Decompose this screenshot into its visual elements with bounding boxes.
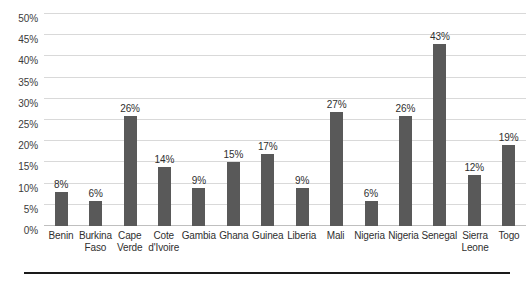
bar-slot: 8%	[44, 14, 78, 226]
bar[interactable]: 9%	[192, 188, 205, 226]
y-axis-tick-label: 25%	[18, 119, 38, 120]
y-axis-tick-label: 50%	[18, 13, 38, 14]
bar[interactable]: 9%	[296, 188, 309, 226]
bar-value-label: 15%	[223, 149, 243, 160]
bar-value-label: 6%	[364, 188, 378, 199]
bar-value-label: 12%	[464, 162, 484, 173]
bar-value-label: 27%	[327, 99, 347, 110]
y-axis-tick-label: 45%	[18, 34, 38, 35]
chart-screenshot: 0%5%10%15%20%25%30%35%40%45%50% 8%6%26%1…	[0, 0, 532, 287]
bar-slot: 9%	[285, 14, 319, 226]
x-axis-tick-label: Guinea	[251, 228, 285, 242]
bar[interactable]: 27%	[330, 112, 343, 226]
bar-slot: 43%	[423, 14, 457, 226]
x-axis-tick-label: Nigeria	[386, 228, 420, 242]
bar-slot: 26%	[388, 14, 422, 226]
bar-value-label: 9%	[192, 175, 206, 186]
x-axis-tick-label: SierraLeone	[458, 228, 492, 254]
y-axis-tick-label: 10%	[18, 182, 38, 183]
y-axis-tick-label: 30%	[18, 97, 38, 98]
bar[interactable]: 26%	[124, 116, 137, 226]
x-axis-tick-label: Mali	[319, 228, 353, 242]
bar-value-label: 6%	[88, 188, 102, 199]
bar-value-label: 17%	[258, 141, 278, 152]
bar-slot: 14%	[147, 14, 181, 226]
plot-area: 0%5%10%15%20%25%30%35%40%45%50% 8%6%26%1…	[44, 14, 526, 226]
bar[interactable]: 43%	[433, 44, 446, 226]
bar[interactable]: 14%	[158, 167, 171, 226]
bar-slot: 6%	[78, 14, 112, 226]
x-axis-tick-label: Benin	[44, 228, 78, 242]
bar[interactable]: 15%	[227, 162, 240, 226]
bar-slot: 27%	[319, 14, 353, 226]
bar-slot: 26%	[113, 14, 147, 226]
x-axis-tick-label: Ghana	[217, 228, 251, 242]
y-axis-tick-label: 5%	[24, 203, 38, 204]
y-axis-tick-label: 40%	[18, 55, 38, 56]
bar[interactable]: 12%	[468, 175, 481, 226]
bar-chart: 0%5%10%15%20%25%30%35%40%45%50% 8%6%26%1…	[0, 0, 532, 264]
bar-value-label: 26%	[120, 103, 140, 114]
x-axis-tick-label: Coted'Ivoire	[147, 228, 181, 254]
y-axis-tick-label: 35%	[18, 76, 38, 77]
bar-value-label: 9%	[295, 175, 309, 186]
bar-slot: 19%	[491, 14, 525, 226]
y-axis-tick-label: 0%	[24, 225, 38, 226]
x-axis-tick-label: BurkinaFaso	[78, 228, 113, 254]
bar-value-label: 14%	[155, 154, 175, 165]
x-axis-tick-label: Senegal	[420, 228, 458, 242]
bar-slot: 17%	[251, 14, 285, 226]
x-axis-tick-label: Liberia	[285, 228, 319, 242]
bar[interactable]: 17%	[261, 154, 274, 226]
x-axis-tick-label: CapeVerde	[113, 228, 147, 254]
bar[interactable]: 6%	[89, 201, 102, 226]
bar-slot: 12%	[457, 14, 491, 226]
bar-value-label: 19%	[499, 132, 519, 143]
bar-value-label: 26%	[396, 103, 416, 114]
bar[interactable]: 19%	[502, 145, 515, 226]
x-axis-tick-label: Nigeria	[353, 228, 387, 242]
x-axis-labels: BeninBurkinaFasoCapeVerdeCoted'IvoireGam…	[44, 228, 526, 264]
bar-value-label: 43%	[430, 31, 450, 42]
bar-value-label: 8%	[54, 179, 68, 190]
bar[interactable]: 6%	[365, 201, 378, 226]
bar-slot: 6%	[354, 14, 388, 226]
y-axis-tick-label: 20%	[18, 140, 38, 141]
bar-series: 8%6%26%14%9%15%17%9%27%6%26%43%12%19%	[44, 14, 526, 226]
y-axis-tick-label: 15%	[18, 161, 38, 162]
x-axis-tick-label: Togo	[492, 228, 526, 242]
bar[interactable]: 26%	[399, 116, 412, 226]
x-axis-tick-label: Gambia	[181, 228, 217, 242]
bottom-divider	[24, 272, 510, 274]
bar-slot: 15%	[216, 14, 250, 226]
bar-slot: 9%	[182, 14, 216, 226]
bar[interactable]: 8%	[55, 192, 68, 226]
